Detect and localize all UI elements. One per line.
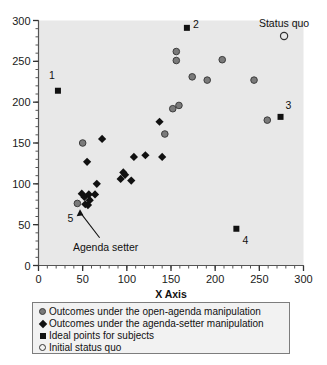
y-axis-tick-label: 0 <box>24 260 30 272</box>
x-axis-tick-label: 300 <box>294 273 312 285</box>
black-filled-diamond-marker-icon <box>37 318 48 329</box>
data-point-square <box>278 114 284 120</box>
data-point-circle <box>173 57 180 64</box>
data-point-label: 3 <box>286 99 292 111</box>
x-axis-tick-label: 50 <box>77 273 89 285</box>
data-point-circle <box>204 77 211 84</box>
y-axis-tick-label: 200 <box>12 96 30 108</box>
data-point-circle <box>264 117 271 124</box>
legend-item-label: Outcomes under the open-agenda manipulat… <box>49 306 261 317</box>
x-axis-title: X Axis <box>155 288 187 300</box>
legend-item-ideal-points: Ideal points for subjects <box>37 330 285 342</box>
agenda-setter-annotation: Agenda setter <box>73 241 139 253</box>
legend-item-label: Initial status quo <box>49 342 121 353</box>
data-point-label: 5 <box>67 212 73 224</box>
y-axis-tick-label: 50 <box>18 219 30 231</box>
open-circle-marker-icon <box>37 342 48 353</box>
data-point-label: 4 <box>242 234 248 246</box>
status-quo-annotation: Status quo <box>259 17 309 29</box>
legend-item-label: Outcomes under the agenda-setter manipul… <box>49 318 264 329</box>
data-point-circle <box>173 48 180 55</box>
data-point-label: 2 <box>193 18 199 30</box>
data-point-circle <box>176 102 183 109</box>
y-axis-tick-label: 100 <box>12 178 30 190</box>
x-axis-tick-label: 200 <box>206 273 224 285</box>
chart-legend: Outcomes under the open-agenda manipulat… <box>32 302 290 354</box>
legend-item-status-quo: Initial status quo <box>37 342 285 354</box>
scatter-plot-figure: 050100150200250300050100150200250300X Ax… <box>0 0 327 365</box>
gray-filled-circle-marker-icon <box>37 306 48 317</box>
y-axis-tick-label: 250 <box>12 55 30 67</box>
data-point-square <box>184 25 190 31</box>
legend-item-agenda-setter: Outcomes under the agenda-setter manipul… <box>37 318 285 330</box>
plot-area-background <box>39 21 304 266</box>
x-axis-tick-label: 150 <box>162 273 180 285</box>
legend-item-open-agenda: Outcomes under the open-agenda manipulat… <box>37 306 285 318</box>
black-filled-square-marker-icon <box>37 330 48 341</box>
x-axis-tick-label: 250 <box>250 273 268 285</box>
legend-item-label: Ideal points for subjects <box>49 330 154 341</box>
data-point-square <box>55 88 61 94</box>
data-point-circle <box>169 105 176 112</box>
data-point-circle <box>189 74 196 81</box>
data-point-circle <box>219 56 226 63</box>
data-point-circle <box>79 140 86 147</box>
data-point-circle <box>251 77 258 84</box>
y-axis-tick-label: 150 <box>12 137 30 149</box>
data-point-circle <box>74 200 81 207</box>
x-axis-tick-label: 0 <box>35 273 41 285</box>
data-point-square <box>233 226 239 232</box>
data-point-circle <box>162 131 169 138</box>
data-point-label: 1 <box>49 69 55 81</box>
y-axis-tick-label: 300 <box>12 15 30 27</box>
x-axis-tick-label: 100 <box>118 273 136 285</box>
